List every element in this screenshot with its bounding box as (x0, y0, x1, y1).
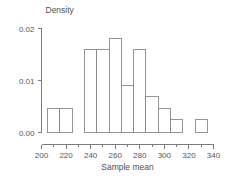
histogram-bar (97, 49, 109, 132)
x-tick-label: 260 (109, 151, 123, 160)
histogram-bar (85, 49, 97, 132)
histogram-bar (60, 108, 72, 132)
histogram-bar (121, 86, 133, 133)
y-tick-label: 0.01 (19, 77, 35, 86)
histogram-plot: 0.000.010.02200220240260280300320340Dens… (0, 0, 232, 180)
x-tick-label: 220 (59, 151, 73, 160)
x-tick-label: 200 (35, 151, 49, 160)
x-tick-label: 240 (84, 151, 98, 160)
histogram-bar (158, 108, 170, 132)
histogram-bar (109, 39, 121, 133)
x-tick-label: 300 (158, 151, 172, 160)
x-tick-label: 320 (182, 151, 196, 160)
y-axis-title: Density (46, 5, 75, 15)
histogram-bar (48, 108, 60, 132)
x-axis-title: Sample mean (101, 162, 154, 172)
y-tick-label: 0.00 (19, 129, 35, 138)
histogram-figure: 0.000.010.02200220240260280300320340Dens… (0, 0, 232, 180)
x-tick-label: 280 (133, 151, 147, 160)
histogram-bar (171, 120, 183, 133)
y-tick-label: 0.02 (19, 25, 35, 34)
histogram-bar (195, 120, 207, 133)
histogram-bars (48, 39, 208, 133)
histogram-bar (146, 96, 158, 132)
x-tick-label: 340 (207, 151, 221, 160)
histogram-bar (134, 49, 146, 132)
